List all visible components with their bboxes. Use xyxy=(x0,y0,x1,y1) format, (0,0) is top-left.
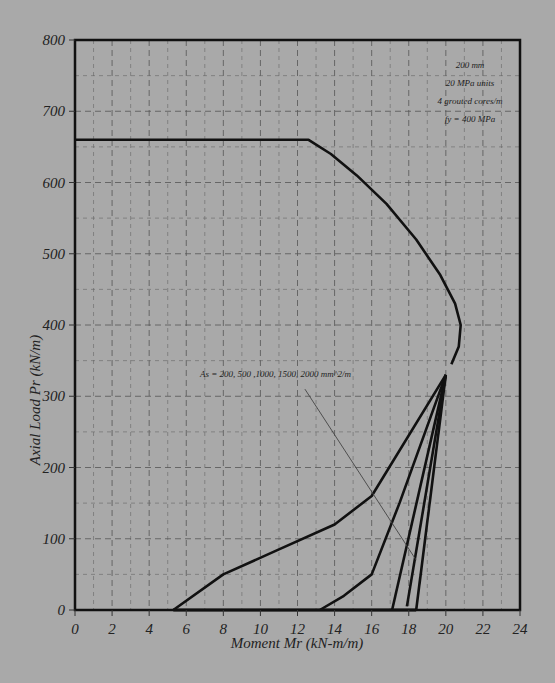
reinforcement-curve xyxy=(392,375,446,610)
x-tick-label: 22 xyxy=(475,621,491,637)
info-thickness: 200 mm xyxy=(456,60,485,70)
x-tick-label: 16 xyxy=(364,621,380,637)
info-fy: fy = 400 MPa xyxy=(445,114,496,124)
x-tick-label: 4 xyxy=(145,621,153,637)
x-tick-label: 24 xyxy=(513,621,529,637)
x-tick-label: 20 xyxy=(438,621,454,637)
reinforcement-curve xyxy=(173,375,446,610)
annotation-pointer-line xyxy=(305,389,416,560)
y-tick-label: 800 xyxy=(43,32,66,48)
x-tick-label: 2 xyxy=(108,621,116,637)
y-tick-label: 400 xyxy=(43,317,66,333)
info-strength: 20 MPa units xyxy=(446,78,495,88)
x-tick-label: 18 xyxy=(401,621,417,637)
interaction-diagram-chart: 024681012141618202224 010020030040050060… xyxy=(0,0,555,683)
y-tick-label: 100 xyxy=(43,531,66,547)
x-axis-label: Moment Mr (kN-m/m) xyxy=(230,635,363,652)
grid-lines xyxy=(75,40,520,610)
x-axis-ticks: 024681012141618202224 xyxy=(71,610,528,637)
x-tick-label: 8 xyxy=(220,621,228,637)
x-tick-label: 6 xyxy=(183,621,191,637)
x-tick-label: 0 xyxy=(71,621,79,637)
y-tick-label: 700 xyxy=(43,103,66,119)
envelope-curve xyxy=(75,140,461,364)
y-tick-label: 500 xyxy=(43,246,66,262)
y-tick-label: 200 xyxy=(43,460,66,476)
reinforcement-curve xyxy=(407,375,446,607)
info-box: 200 mm 20 MPa units 4 grouted cores/m fy… xyxy=(438,60,503,124)
series-label: As = 200, 500 ,1000, 1500, 2000 mm^2/m xyxy=(199,369,352,379)
y-axis-ticks: 0100200300400500600700800 xyxy=(42,32,76,618)
y-tick-label: 300 xyxy=(42,388,66,404)
reinforcement-curve xyxy=(416,375,446,610)
y-tick-label: 0 xyxy=(58,602,66,618)
y-axis-label: Axial Load Pr (kN/m) xyxy=(27,335,44,466)
y-tick-label: 600 xyxy=(43,175,66,191)
info-cores: 4 grouted cores/m xyxy=(438,96,503,106)
